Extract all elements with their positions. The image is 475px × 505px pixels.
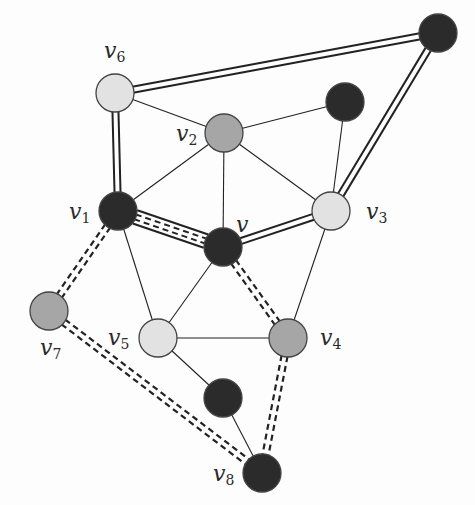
node-v8 [243, 454, 281, 492]
node-t [419, 14, 457, 52]
node-v4 [269, 319, 307, 357]
node-v1 [99, 192, 137, 230]
nodes-layer [30, 14, 457, 492]
edge-v3-v4 [288, 211, 331, 338]
node-label-v: v [236, 212, 249, 237]
edge-v6-t [132, 33, 421, 92]
node-w [204, 379, 242, 417]
edge-v-v3 [239, 214, 315, 244]
node-label-v5: v5 [108, 325, 129, 352]
node-label-v8: v8 [213, 461, 234, 488]
node-v3 [312, 192, 350, 230]
graph-diagram: v6v2v1v3vv7v5v4v8 [0, 0, 475, 505]
node-label-v3: v3 [366, 199, 387, 226]
node-label-v4: v4 [320, 325, 341, 352]
edge-v1-v7 [57, 224, 110, 298]
edge-t-v3 [338, 47, 432, 197]
node-label-v7: v7 [40, 335, 61, 362]
node-label-v1: v1 [69, 199, 90, 226]
node-label-v2: v2 [176, 121, 197, 148]
edge-v1-v [133, 210, 208, 248]
edge-v6-v1 [112, 111, 120, 193]
edge-v2-v1 [118, 133, 224, 211]
node-v2 [205, 114, 243, 152]
node-v6 [96, 74, 134, 112]
edge-v-v4 [231, 260, 280, 325]
node-v5 [139, 319, 177, 357]
edge-v4-v8 [262, 355, 287, 456]
node-u [326, 83, 364, 121]
node-label-v6: v6 [104, 38, 125, 65]
edge-v2-v3 [224, 133, 331, 211]
node-v7 [30, 292, 68, 330]
